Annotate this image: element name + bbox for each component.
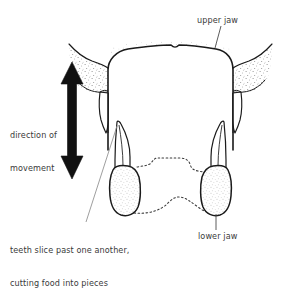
label-teeth-note-line-1: teeth slice past one another,	[10, 245, 130, 256]
upper-right-fang	[233, 90, 242, 133]
double-headed-vertical-arrow-icon	[61, 62, 83, 179]
label-direction-line-2: movement	[10, 163, 57, 174]
upper-jaw-plate	[108, 45, 233, 150]
label-teeth-note-line-2: cutting food into pieces	[10, 278, 130, 289]
label-direction-of-movement: direction of movement	[10, 108, 57, 196]
upper-jaw-right-wing	[233, 44, 272, 93]
label-teeth-note: teeth slice past one another, cutting fo…	[10, 223, 130, 292]
label-lower-jaw: lower jaw	[198, 231, 237, 242]
label-direction-line-1: direction of	[10, 130, 57, 141]
label-upper-jaw: upper jaw	[197, 15, 238, 26]
upper-left-fang	[99, 90, 108, 133]
